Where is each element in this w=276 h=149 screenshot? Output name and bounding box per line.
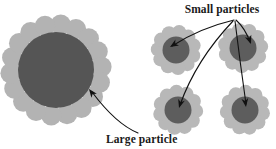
- cluster-top-left-core-particle: [163, 37, 190, 64]
- cluster-top-right-core-particle: [230, 35, 257, 62]
- diagram-canvas: Small particlesLarge particle: [0, 0, 276, 149]
- particle-diagram-figure: Small particlesLarge particle: [0, 0, 276, 149]
- large-particle-core-particle: [18, 32, 94, 108]
- label-large-particle: Large particle: [106, 133, 177, 146]
- label-small-particles: Small particles: [185, 3, 260, 16]
- cluster-bottom-left-core-particle: [165, 97, 192, 124]
